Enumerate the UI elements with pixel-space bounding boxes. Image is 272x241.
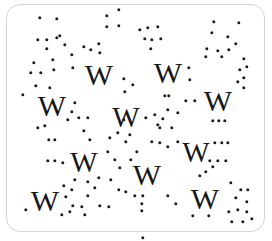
letter-glyph-w[interactable]: W bbox=[31, 186, 59, 216]
noise-dot bbox=[224, 159, 227, 162]
noise-dot bbox=[158, 126, 161, 129]
letter-glyph-w[interactable]: W bbox=[182, 138, 209, 167]
noise-dot bbox=[211, 165, 214, 168]
noise-dot bbox=[77, 116, 80, 119]
noise-dot bbox=[188, 78, 191, 81]
letter-glyph-w[interactable]: W bbox=[112, 103, 139, 132]
letter-glyph-w[interactable]: W bbox=[70, 148, 97, 177]
letter-glyph-w[interactable]: W bbox=[85, 60, 113, 90]
noise-dot bbox=[70, 53, 73, 56]
noise-dot bbox=[118, 166, 121, 169]
noise-dot bbox=[245, 210, 248, 213]
noise-dot bbox=[213, 141, 216, 144]
noise-dot bbox=[105, 25, 108, 28]
noise-dot bbox=[135, 150, 138, 153]
noise-dot bbox=[167, 94, 170, 97]
noise-dot bbox=[38, 16, 41, 19]
noise-dot bbox=[217, 119, 220, 122]
noise-dot bbox=[71, 66, 74, 69]
noise-dot bbox=[24, 208, 27, 211]
noise-dot bbox=[242, 57, 245, 60]
noise-dot bbox=[161, 117, 164, 120]
noise-dot bbox=[117, 8, 120, 11]
noise-dot bbox=[46, 159, 49, 162]
noise-dot bbox=[55, 17, 58, 20]
noise-dot bbox=[133, 194, 136, 197]
noise-dot bbox=[234, 196, 237, 199]
noise-dot bbox=[98, 204, 101, 207]
letter-glyph-w[interactable]: W bbox=[204, 86, 232, 116]
noise-dot bbox=[39, 71, 42, 74]
noise-dot bbox=[166, 194, 169, 197]
noise-dot bbox=[174, 202, 177, 205]
noise-dot bbox=[80, 205, 83, 208]
letter-glyph-w[interactable]: W bbox=[154, 58, 182, 88]
noise-dot bbox=[184, 99, 187, 102]
noise-dot bbox=[245, 65, 248, 68]
noise-dot bbox=[193, 99, 196, 102]
noise-dot bbox=[216, 159, 219, 162]
noise-dot bbox=[250, 217, 253, 220]
noise-dot bbox=[144, 116, 147, 119]
noise-dot bbox=[212, 20, 215, 23]
noise-dot bbox=[166, 145, 169, 148]
noise-dot bbox=[241, 220, 244, 223]
noise-dot bbox=[176, 140, 179, 143]
noise-dot bbox=[52, 68, 55, 71]
noise-dot bbox=[245, 200, 248, 203]
noise-dot bbox=[34, 84, 37, 87]
noise-dot bbox=[97, 176, 100, 179]
noise-dot bbox=[83, 213, 86, 216]
noise-dot bbox=[156, 25, 159, 28]
noise-dot bbox=[166, 108, 169, 111]
noise-dot bbox=[88, 138, 91, 141]
noise-dot bbox=[176, 111, 179, 114]
noise-dot bbox=[43, 124, 46, 127]
scatter-plane[interactable]: WWWWWWWWWW bbox=[0, 0, 272, 241]
noise-dot bbox=[108, 136, 111, 139]
noise-dot bbox=[117, 188, 120, 191]
noise-dot bbox=[64, 195, 67, 198]
noise-dot bbox=[29, 71, 32, 74]
noise-dot bbox=[73, 178, 76, 181]
noise-dot bbox=[61, 161, 64, 164]
noise-dot bbox=[128, 133, 131, 136]
noise-dot bbox=[236, 208, 239, 211]
noise-dot bbox=[239, 188, 242, 191]
noise-dot bbox=[230, 220, 233, 223]
noise-dot bbox=[113, 158, 116, 161]
noise-dot bbox=[138, 28, 141, 31]
noise-dot bbox=[226, 35, 229, 38]
noise-dot bbox=[117, 24, 120, 27]
noise-dot bbox=[45, 47, 48, 50]
letter-glyph-w[interactable]: W bbox=[38, 91, 66, 121]
noise-dot bbox=[68, 210, 71, 213]
noise-dot bbox=[71, 204, 74, 207]
noise-dot bbox=[236, 80, 239, 83]
noise-dot bbox=[63, 43, 66, 46]
noise-dot bbox=[246, 188, 249, 191]
noise-dot bbox=[237, 21, 240, 24]
noise-dot bbox=[124, 140, 127, 143]
noise-dot bbox=[105, 14, 108, 17]
noise-dot bbox=[238, 68, 241, 71]
noise-dot bbox=[146, 26, 149, 29]
noise-dot bbox=[143, 37, 146, 40]
noise-dot bbox=[86, 116, 89, 119]
letter-glyph-w[interactable]: W bbox=[191, 184, 219, 214]
noise-dot bbox=[141, 194, 144, 197]
noise-dot bbox=[82, 45, 85, 48]
noise-dot bbox=[60, 213, 63, 216]
noise-dot bbox=[149, 47, 152, 50]
noise-dot bbox=[158, 141, 161, 144]
noise-dot bbox=[86, 194, 89, 197]
noise-dot bbox=[140, 209, 143, 212]
noise-dot bbox=[131, 83, 134, 86]
letter-glyph-w[interactable]: W bbox=[133, 160, 161, 190]
noise-dot bbox=[159, 37, 162, 40]
noise-dot bbox=[140, 202, 143, 205]
noise-dot bbox=[220, 141, 223, 144]
noise-dot bbox=[150, 38, 153, 41]
noise-dot bbox=[123, 90, 126, 93]
noise-dot bbox=[73, 101, 76, 104]
